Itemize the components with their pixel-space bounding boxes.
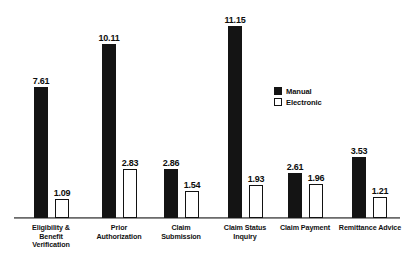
bar-value-electronic-prior-authorization: 2.83 <box>122 158 139 168</box>
x-axis-baseline <box>14 217 400 219</box>
bar-value-manual-prior-authorization: 10.11 <box>98 33 119 43</box>
bar-value-manual-claim-submission: 2.86 <box>163 158 180 168</box>
filled-square-icon <box>274 87 282 95</box>
plot-area: 7.61 1.09 Eligibility & Benefit Verifica… <box>0 0 415 266</box>
bar-value-electronic-claim-submission: 1.54 <box>184 180 201 190</box>
bar-manual-eligibility[interactable]: 7.61 <box>34 87 48 218</box>
bar-electronic-claim-payment[interactable]: 1.96 <box>309 184 323 218</box>
bar-manual-claim-submission[interactable]: 2.86 <box>164 169 178 218</box>
category-label-remittance-advice: Remittance Advice <box>329 224 411 233</box>
bar-chart: 7.61 1.09 Eligibility & Benefit Verifica… <box>0 0 415 266</box>
bar-electronic-claim-submission[interactable]: 1.54 <box>185 191 199 218</box>
bar-value-manual-claim-payment: 2.61 <box>287 162 304 172</box>
bar-electronic-remittance-advice[interactable]: 1.21 <box>373 197 387 218</box>
outlined-square-icon <box>274 98 282 106</box>
bar-electronic-prior-authorization[interactable]: 2.83 <box>123 169 137 218</box>
legend-item-manual[interactable]: Manual <box>274 86 322 96</box>
bar-manual-remittance-advice[interactable]: 3.53 <box>352 157 366 218</box>
bar-value-electronic-claim-payment: 1.96 <box>308 173 325 183</box>
legend-item-electronic[interactable]: Electronic <box>274 97 322 107</box>
bar-value-manual-eligibility: 7.61 <box>33 76 50 86</box>
legend-label-manual: Manual <box>286 87 312 96</box>
chart-legend: Manual Electronic <box>274 86 322 108</box>
bar-electronic-claim-status-inquiry[interactable]: 1.93 <box>249 185 263 218</box>
bar-value-electronic-remittance-advice: 1.21 <box>372 186 389 196</box>
bar-electronic-eligibility[interactable]: 1.09 <box>55 199 69 218</box>
bar-value-manual-remittance-advice: 3.53 <box>351 146 368 156</box>
bar-value-electronic-claim-status-inquiry: 1.93 <box>248 174 265 184</box>
bar-manual-prior-authorization[interactable]: 10.11 <box>102 44 116 218</box>
legend-label-electronic: Electronic <box>286 98 322 107</box>
bar-value-manual-claim-status-inquiry: 11.15 <box>224 15 245 25</box>
bar-value-electronic-eligibility: 1.09 <box>54 188 71 198</box>
bar-manual-claim-payment[interactable]: 2.61 <box>288 173 302 218</box>
bar-manual-claim-status-inquiry[interactable]: 11.15 <box>228 26 242 218</box>
